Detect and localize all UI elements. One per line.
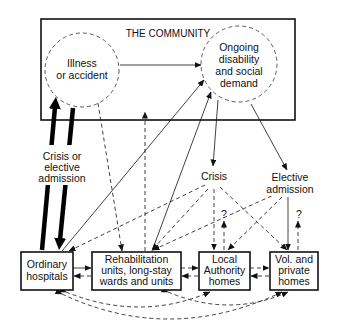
edge-illness-to-rehab: [98, 103, 122, 251]
edge-crisis-to-vol: [220, 187, 287, 250]
node-vol-private-homes: Vol. and private homes: [270, 252, 318, 290]
edge-ongoing-to-elective: [251, 104, 287, 170]
svg-text:wards and units: wards and units: [99, 275, 174, 287]
node-crisis: Crisis: [198, 169, 230, 182]
uncertain-mark-vol: ?: [296, 208, 302, 220]
edge-ongoing-to-crisis: [213, 100, 218, 166]
svg-text:hospitals: hospitals: [26, 270, 67, 282]
svg-text:Illness: Illness: [67, 57, 97, 69]
svg-text:Crisis: Crisis: [201, 170, 227, 182]
svg-text:admission: admission: [38, 172, 85, 184]
svg-text:demand: demand: [220, 77, 258, 89]
community-title: THE COMMUNITY: [126, 28, 211, 39]
svg-text:or accident: or accident: [56, 69, 107, 81]
care-flow-diagram: THE COMMUNITY ? ? Illness or accident: [0, 0, 337, 332]
node-local-authority-homes: Local Authority homes: [199, 252, 250, 290]
svg-text:homes: homes: [209, 275, 241, 287]
svg-text:Ordinary: Ordinary: [27, 258, 68, 270]
node-elective-admission: Elective admission: [264, 170, 316, 196]
svg-text:disability: disability: [219, 53, 260, 65]
svg-text:Elective: Elective: [272, 171, 309, 183]
svg-text:homes: homes: [278, 275, 310, 287]
uncertain-mark-local: ?: [221, 208, 227, 220]
node-ongoing-disability: Ongoing disability and social demand: [201, 26, 277, 102]
edge-elective-to-local: [228, 197, 282, 250]
svg-text:and social: and social: [215, 65, 262, 77]
edge-ordinary-to-vol-curve: [62, 292, 282, 319]
node-rehabilitation-units: Rehabilitation units, long-stay wards an…: [92, 252, 181, 290]
label-crisis-or-elective: Crisis or elective admission: [38, 150, 85, 184]
node-ordinary-hospitals: Ordinary hospitals: [21, 252, 73, 290]
edge-rehab-to-vol-curve: [168, 292, 288, 305]
svg-text:admission: admission: [266, 183, 313, 195]
edge-crisis-to-rehab: [152, 189, 208, 250]
svg-text:Ongoing: Ongoing: [219, 41, 259, 53]
node-illness: Illness or accident: [45, 33, 119, 107]
